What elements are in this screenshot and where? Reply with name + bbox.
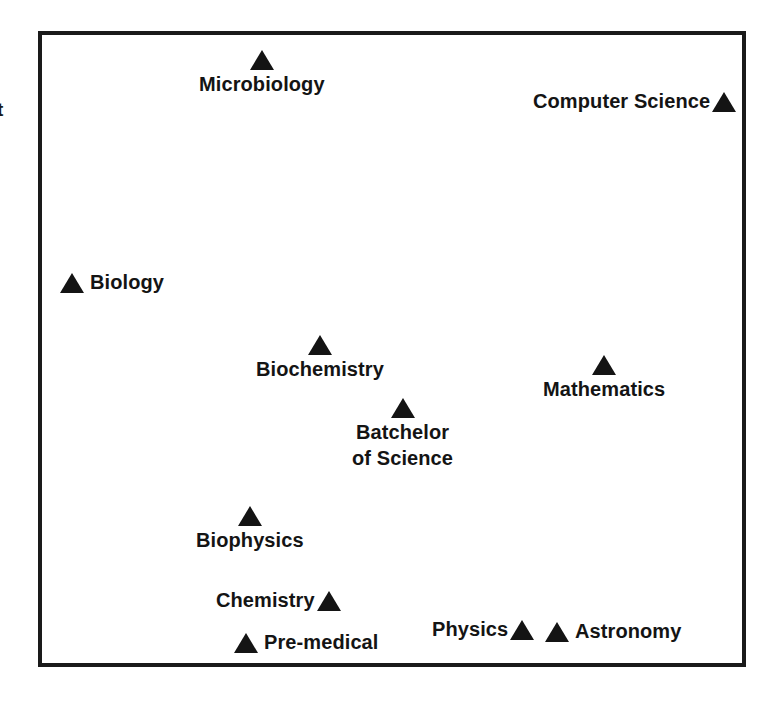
triangle-marker-icon xyxy=(391,398,415,418)
data-point-label: Biophysics xyxy=(196,529,304,552)
data-point-label: Chemistry xyxy=(216,589,315,612)
data-point-label-line1: Batchelor xyxy=(356,421,449,444)
plot-frame: Microbiology Computer Science Biology Bi… xyxy=(38,31,746,667)
data-point-label: Biochemistry xyxy=(256,358,384,381)
triangle-marker-icon xyxy=(250,50,274,70)
data-point-label: Computer Science xyxy=(533,90,710,113)
triangle-marker-icon xyxy=(317,591,341,611)
data-point-label-line2: of Science xyxy=(352,447,453,470)
data-point-label: Biology xyxy=(90,271,164,294)
data-point-biology[interactable]: Biology xyxy=(60,271,164,294)
triangle-marker-icon xyxy=(60,273,84,293)
data-point-premedical[interactable]: Pre-medical xyxy=(234,631,379,654)
clipped-axis-label-fragment: t xyxy=(0,99,11,121)
data-point-label: Mathematics xyxy=(543,378,665,401)
data-point-biophysics[interactable]: Biophysics xyxy=(196,506,304,552)
data-point-label: Astronomy xyxy=(575,620,681,643)
triangle-marker-icon xyxy=(545,622,569,642)
triangle-marker-icon xyxy=(592,355,616,375)
data-point-chemistry[interactable]: Chemistry xyxy=(216,589,341,612)
data-point-mathematics[interactable]: Mathematics xyxy=(543,355,665,401)
data-point-biochemistry[interactable]: Biochemistry xyxy=(256,335,384,381)
triangle-marker-icon xyxy=(712,92,736,112)
data-point-astronomy[interactable]: Astronomy xyxy=(545,620,681,643)
triangle-marker-icon xyxy=(234,633,258,653)
data-point-label: Physics xyxy=(432,618,508,641)
scatter-plot-figure: t Microbiology Computer Science Biology … xyxy=(0,0,776,710)
data-point-batchelor-of-science[interactable]: Batchelor of Science xyxy=(352,398,453,470)
data-point-computer-science[interactable]: Computer Science xyxy=(533,90,736,113)
data-point-label: Microbiology xyxy=(199,73,325,96)
triangle-marker-icon xyxy=(308,335,332,355)
data-point-microbiology[interactable]: Microbiology xyxy=(199,50,325,96)
triangle-marker-icon xyxy=(510,620,534,640)
data-point-label: Pre-medical xyxy=(264,631,379,654)
data-point-physics[interactable]: Physics xyxy=(432,618,534,641)
triangle-marker-icon xyxy=(238,506,262,526)
